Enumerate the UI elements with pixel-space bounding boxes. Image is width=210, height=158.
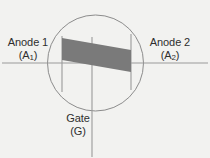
label-gate-name: Gate	[66, 112, 89, 124]
semiconductor-slab	[62, 38, 131, 72]
label-gate-designator: (G)	[56, 125, 100, 138]
label-anode2-designator-close: )	[176, 49, 180, 61]
label-gate: Gate (G)	[56, 112, 100, 137]
label-anode1-designator: (A1)	[4, 49, 52, 65]
copyright-block: Copyright © 2014 Cengage Learning® All R…	[186, 0, 210, 158]
label-anode2-designator-open: (A	[161, 49, 172, 61]
label-anode1-designator-open: (A	[19, 49, 30, 61]
label-anode1: Anode 1 (A1)	[4, 36, 52, 64]
label-anode2-name: Anode 2	[150, 36, 190, 48]
triac-diagram-figure: Anode 1 (A1) Anode 2 (A2) Gate (G) Copyr…	[0, 0, 210, 158]
label-anode1-name: Anode 1	[8, 36, 48, 48]
label-anode1-designator-close: )	[34, 49, 38, 61]
triac-diagram-svg	[0, 0, 210, 158]
